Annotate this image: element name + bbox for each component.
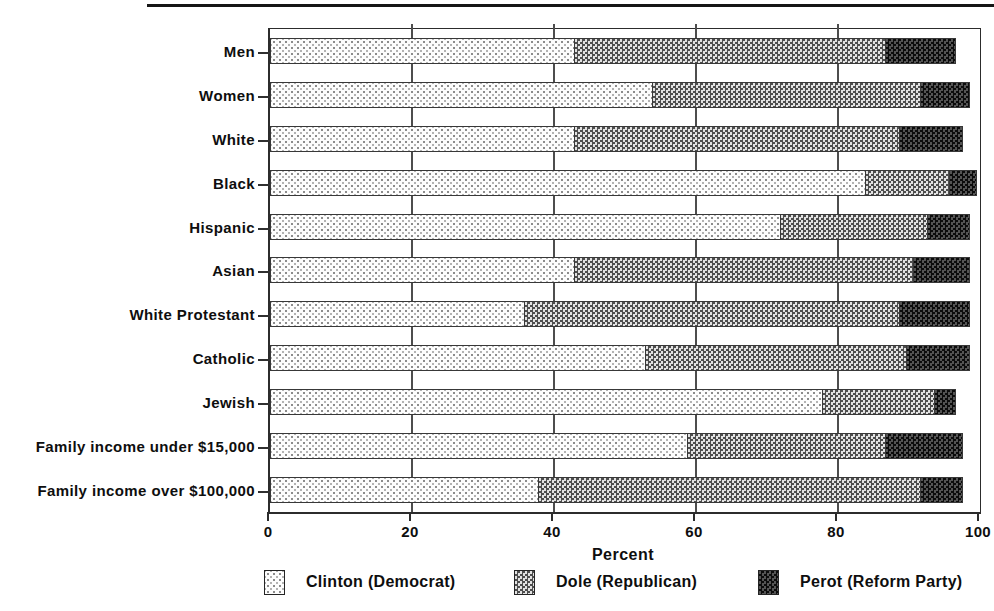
bar-segment-dole (574, 126, 901, 152)
bar-segment-clinton (270, 477, 540, 503)
bar-segment-clinton (270, 126, 575, 152)
bar-segment-clinton (270, 214, 781, 240)
x-tick-mark-40 (551, 512, 553, 521)
bar-segment-perot (885, 38, 956, 64)
stacked-bar (270, 126, 980, 152)
y-axis-tick (258, 228, 270, 230)
y-axis-tick (258, 184, 270, 186)
legend-item-perot: Perot (Reform Party) (758, 569, 962, 595)
bar-row: White (270, 126, 980, 152)
category-label: Women (199, 86, 255, 103)
x-axis: 020406080100 (268, 511, 978, 551)
bar-segment-clinton (270, 345, 646, 371)
x-tick-mark-100 (977, 512, 979, 521)
category-label: Jewish (203, 394, 255, 411)
bar-segment-perot (949, 170, 977, 196)
x-tick-mark-80 (835, 512, 837, 521)
bar-row: Family income over $100,000 (270, 477, 980, 503)
stacked-bar (270, 345, 980, 371)
y-axis-tick (258, 140, 270, 142)
bar-row: Black (270, 170, 980, 196)
stacked-bar (270, 214, 980, 240)
category-label: Family income over $100,000 (37, 482, 255, 499)
x-axis-title: Percent (268, 546, 978, 564)
legend-swatch-dole (514, 570, 535, 595)
x-tick-mark-0 (267, 512, 269, 521)
stacked-bar (270, 170, 980, 196)
stacked-bar (270, 389, 980, 415)
category-label: Black (213, 174, 255, 191)
category-label: Men (224, 42, 255, 59)
bar-segment-dole (574, 257, 915, 283)
bar-row: Men (270, 38, 980, 64)
bar-segment-dole (574, 38, 886, 64)
stacked-bar-chart: MenWomenWhiteBlackHispanicAsianWhite Pro… (268, 28, 981, 514)
x-tick-label-60: 60 (685, 523, 702, 540)
legend-label-clinton: Clinton (Democrat) (306, 569, 455, 595)
legend-swatch-clinton (264, 570, 285, 595)
bar-segment-clinton (270, 389, 824, 415)
bar-segment-perot (899, 126, 963, 152)
bar-segment-dole (538, 477, 921, 503)
bar-row: Asian (270, 257, 980, 283)
y-axis-tick (258, 491, 270, 493)
legend-label-dole: Dole (Republican) (556, 569, 697, 595)
page-top-rule (147, 4, 994, 7)
y-axis-tick (258, 271, 270, 273)
x-tick-mark-60 (693, 512, 695, 521)
bar-segment-perot (906, 345, 970, 371)
bar-segment-perot (934, 389, 955, 415)
bar-rows: MenWomenWhiteBlackHispanicAsianWhite Pro… (270, 29, 980, 512)
legend-swatch-perot (758, 570, 779, 595)
x-tick-label-80: 80 (827, 523, 844, 540)
scanned-chart-page: MenWomenWhiteBlackHispanicAsianWhite Pro… (0, 0, 994, 611)
bar-segment-perot (899, 301, 970, 327)
bar-segment-dole (524, 301, 900, 327)
bar-row: White Protestant (270, 301, 980, 327)
stacked-bar (270, 477, 980, 503)
stacked-bar (270, 433, 980, 459)
y-axis-tick (258, 359, 270, 361)
x-tick-label-100: 100 (965, 523, 991, 540)
bar-segment-clinton (270, 170, 866, 196)
bar-row: Catholic (270, 345, 980, 371)
category-label: White (212, 130, 255, 147)
x-tick-mark-20 (409, 512, 411, 521)
bar-segment-dole (652, 82, 922, 108)
bar-segment-perot (927, 214, 970, 240)
y-axis-tick (258, 52, 270, 54)
x-tick-label-0: 0 (264, 523, 273, 540)
bar-row: Jewish (270, 389, 980, 415)
stacked-bar (270, 301, 980, 327)
bar-segment-perot (920, 82, 970, 108)
category-label: Asian (212, 262, 255, 279)
legend: Clinton (Democrat)Dole (Republican)Perot… (0, 569, 994, 596)
bar-segment-clinton (270, 82, 653, 108)
bar-segment-clinton (270, 38, 575, 64)
bar-segment-clinton (270, 301, 526, 327)
category-label: White Protestant (129, 306, 255, 323)
category-label: Hispanic (189, 218, 255, 235)
y-axis-tick (258, 447, 270, 449)
bar-segment-clinton (270, 257, 575, 283)
y-axis-tick (258, 96, 270, 98)
x-tick-label-20: 20 (401, 523, 418, 540)
bar-segment-dole (865, 170, 950, 196)
bar-row: Women (270, 82, 980, 108)
y-axis-tick (258, 315, 270, 317)
bar-segment-perot (913, 257, 970, 283)
legend-label-perot: Perot (Reform Party) (800, 569, 962, 595)
stacked-bar (270, 38, 980, 64)
bar-segment-perot (920, 477, 963, 503)
x-tick-label-40: 40 (543, 523, 560, 540)
y-axis-tick (258, 403, 270, 405)
legend-item-clinton: Clinton (Democrat) (264, 569, 455, 595)
stacked-bar (270, 82, 980, 108)
category-label: Catholic (193, 350, 255, 367)
bar-row: Hispanic (270, 214, 980, 240)
bar-segment-dole (645, 345, 908, 371)
bar-segment-clinton (270, 433, 689, 459)
bar-segment-perot (885, 433, 963, 459)
bar-row: Family income under $15,000 (270, 433, 980, 459)
category-label: Family income under $15,000 (36, 438, 255, 455)
